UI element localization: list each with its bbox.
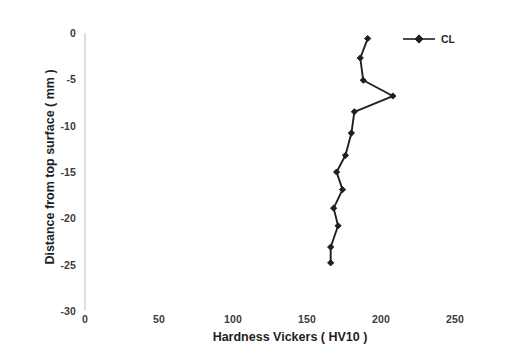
- legend: CL: [402, 33, 455, 45]
- data-point-marker: [339, 187, 345, 193]
- legend-label-cl: CL: [441, 33, 455, 45]
- x-tick-label-150: 150: [287, 313, 327, 325]
- legend-marker-icon: [402, 33, 436, 45]
- data-point-marker: [351, 109, 357, 115]
- series-line: [331, 39, 393, 263]
- data-point-marker: [328, 260, 334, 266]
- x-tick-label-50: 50: [139, 313, 179, 325]
- series-cl: [328, 35, 396, 265]
- chart-container: 0 -5 -10 -15 -20 -25 -30 0 50 100 150 20…: [0, 0, 513, 361]
- data-point-marker: [365, 35, 371, 41]
- plot-area: [0, 0, 513, 361]
- x-tick-label-100: 100: [213, 313, 253, 325]
- data-point-marker: [331, 205, 337, 211]
- data-point-marker: [348, 130, 354, 136]
- data-point-marker: [357, 55, 363, 61]
- x-tick-label-250: 250: [435, 313, 475, 325]
- data-point-marker: [335, 223, 341, 229]
- data-point-marker: [328, 244, 334, 250]
- y-axis-title: Distance from top surface ( mm ): [43, 17, 57, 317]
- x-tick-label-0: 0: [65, 313, 105, 325]
- x-tick-label-200: 200: [361, 313, 401, 325]
- x-axis-title: Hardness Vickers ( HV10 ): [120, 330, 460, 344]
